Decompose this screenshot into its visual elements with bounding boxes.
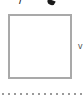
checkbox-label-fragment: v [78, 41, 83, 51]
cropped-text-fragment: / [19, 0, 22, 4]
checkbox[interactable] [8, 14, 72, 79]
dotted-separator [0, 93, 83, 95]
cropped-icon-fragment [46, 0, 55, 6]
